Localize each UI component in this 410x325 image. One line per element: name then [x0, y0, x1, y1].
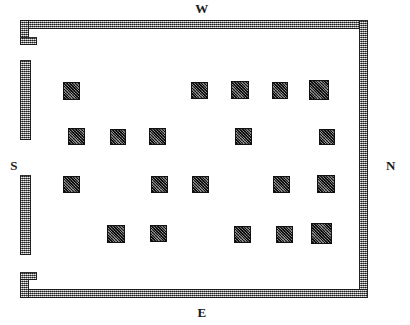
wall-right — [359, 20, 368, 298]
pillar-r3-c4 — [273, 176, 290, 193]
pillar-r3-c3 — [192, 176, 209, 193]
pillar-r1-c4 — [272, 82, 288, 99]
compass-label-east: E — [193, 306, 211, 319]
wall-bottom — [20, 289, 368, 298]
pillar-r4-c3 — [234, 226, 251, 243]
pillar-r1-c3 — [231, 81, 249, 99]
pillar-r3-c5 — [317, 175, 335, 193]
pillar-r2-c4 — [235, 128, 252, 145]
wall-left-notch-bottom — [20, 272, 37, 280]
pillar-r2-c1 — [68, 128, 85, 145]
wall-left-upper — [20, 60, 31, 140]
compass-label-north: N — [383, 159, 399, 172]
pillar-r4-c4 — [276, 226, 293, 243]
wall-left-lower — [20, 175, 31, 255]
interior-floor — [29, 29, 359, 289]
pillar-r4-c1 — [107, 225, 125, 243]
pillar-r2-c3 — [149, 128, 166, 145]
wall-top — [20, 20, 368, 29]
pillar-r2-c2 — [110, 129, 126, 145]
compass-label-west: W — [193, 2, 211, 15]
pillar-r1-c1 — [63, 82, 80, 100]
pillar-r3-c1 — [63, 176, 80, 193]
pillar-r2-c5 — [319, 129, 335, 145]
pillar-r1-c2 — [191, 82, 208, 99]
floor-plan-drawing: W E N S — [0, 0, 410, 325]
pillar-r1-c5 — [309, 80, 329, 100]
compass-label-south: S — [6, 159, 22, 172]
pillar-r4-c5 — [311, 223, 332, 244]
wall-left-notch-top — [20, 37, 37, 45]
pillar-r3-c2 — [151, 176, 168, 193]
pillar-r4-c2 — [150, 225, 167, 242]
